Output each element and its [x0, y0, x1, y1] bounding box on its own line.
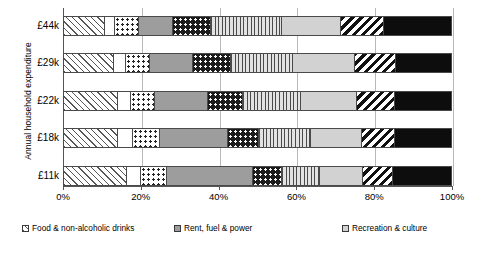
y-axis-category-label: £11k — [1, 166, 59, 186]
x-axis-line — [63, 186, 452, 187]
bar-segment-recreation[interactable] — [300, 92, 356, 110]
x-axis-tick — [141, 186, 142, 190]
bar-segment-alcohol[interactable] — [126, 167, 140, 185]
legend-item-recreation[interactable]: Recreation & culture — [342, 221, 482, 235]
legend-label: Food & non-alcoholic drinks — [32, 221, 134, 235]
chart-legend: Food & non-alcoholic drinksRent, fuel & … — [22, 221, 472, 235]
bar-segment-recreation[interactable] — [292, 54, 354, 72]
bar-segment-food[interactable] — [64, 17, 104, 35]
bar-row: £11k — [0, 166, 482, 186]
bar-segment-transport[interactable] — [281, 167, 319, 185]
bar-segment-transport[interactable] — [230, 54, 292, 72]
x-axis-tick — [374, 186, 375, 190]
legend-swatch-recreation-icon — [342, 225, 349, 232]
legend-swatch-rent-icon — [174, 225, 181, 232]
bar-segment-restaurants[interactable] — [354, 54, 395, 72]
bar-segment-clothing[interactable] — [130, 92, 154, 110]
bar-segment-alcohol[interactable] — [117, 129, 132, 147]
bar-segment-food[interactable] — [64, 129, 117, 147]
legend-label: Recreation & culture — [352, 221, 427, 235]
bar-segment-alcohol[interactable] — [113, 54, 125, 72]
bar-row: £18k — [0, 128, 482, 148]
bar-segment-transport[interactable] — [210, 17, 281, 35]
y-axis-category-label: £29k — [1, 53, 59, 73]
bar-segment-recreation[interactable] — [310, 129, 361, 147]
bar-segment-restaurants[interactable] — [362, 167, 392, 185]
bar-segment-clothing[interactable] — [114, 17, 138, 35]
bar-segment-misc[interactable] — [394, 92, 451, 110]
y-axis-category-label: £22k — [1, 91, 59, 111]
bar-segment-misc[interactable] — [394, 129, 451, 147]
bar-segment-clothing[interactable] — [125, 54, 149, 72]
stacked-bar-chart: Annual household expenditure 0%20%40%60%… — [0, 0, 482, 270]
bar-segment-rent[interactable] — [149, 54, 192, 72]
bar-segment-clothing[interactable] — [132, 129, 159, 147]
x-axis-tick-label: 60% — [287, 191, 306, 202]
legend-item-rent[interactable]: Rent, fuel & power — [174, 221, 342, 235]
x-axis-tick — [452, 186, 453, 190]
stacked-bar[interactable] — [63, 128, 452, 148]
bar-segment-rent[interactable] — [159, 129, 227, 147]
x-axis-tick-label: 80% — [365, 191, 384, 202]
y-axis-category-label: £18k — [1, 128, 59, 148]
bar-segment-restaurants[interactable] — [361, 129, 394, 147]
bar-segment-recreation[interactable] — [281, 17, 340, 35]
bar-segment-rent[interactable] — [166, 167, 252, 185]
legend-item-food[interactable]: Food & non-alcoholic drinks — [22, 221, 174, 235]
x-axis-tick-label: 20% — [131, 191, 150, 202]
x-axis-tick — [219, 186, 220, 190]
bar-segment-alcohol[interactable] — [104, 17, 114, 35]
stacked-bar[interactable] — [63, 53, 452, 73]
bar-segment-rent[interactable] — [138, 17, 172, 35]
legend-swatch-food-icon — [22, 225, 29, 232]
bar-segment-household[interactable] — [207, 92, 242, 110]
x-axis-tick-label: 40% — [209, 191, 228, 202]
bar-row: £22k — [0, 91, 482, 111]
bar-segment-food[interactable] — [64, 54, 113, 72]
stacked-bar[interactable] — [63, 16, 452, 36]
stacked-bar[interactable] — [63, 166, 452, 186]
bar-segment-transport[interactable] — [258, 129, 310, 147]
bar-segment-restaurants[interactable] — [340, 17, 383, 35]
bar-row: £44k — [0, 16, 482, 36]
bar-segment-household[interactable] — [252, 167, 281, 185]
x-axis-tick — [63, 186, 64, 190]
bar-segment-alcohol[interactable] — [117, 92, 130, 110]
bar-row: £29k — [0, 53, 482, 73]
bar-segment-restaurants[interactable] — [356, 92, 394, 110]
bar-segment-household[interactable] — [192, 54, 230, 72]
bar-segment-household[interactable] — [227, 129, 258, 147]
x-axis-tick-label: 100% — [440, 191, 464, 202]
bar-segment-misc[interactable] — [392, 167, 451, 185]
legend-label: Rent, fuel & power — [184, 221, 252, 235]
bar-segment-misc[interactable] — [383, 17, 451, 35]
bar-segment-clothing[interactable] — [140, 167, 166, 185]
bar-segment-misc[interactable] — [395, 54, 451, 72]
x-axis-tick — [296, 186, 297, 190]
x-axis-tick-label: 0% — [56, 191, 70, 202]
y-axis-category-label: £44k — [1, 16, 59, 36]
bar-segment-recreation[interactable] — [319, 167, 362, 185]
bar-segment-food[interactable] — [64, 92, 117, 110]
bar-segment-rent[interactable] — [154, 92, 207, 110]
bar-segment-household[interactable] — [172, 17, 210, 35]
bar-segment-food[interactable] — [64, 167, 126, 185]
bar-segment-transport[interactable] — [242, 92, 300, 110]
stacked-bar[interactable] — [63, 91, 452, 111]
